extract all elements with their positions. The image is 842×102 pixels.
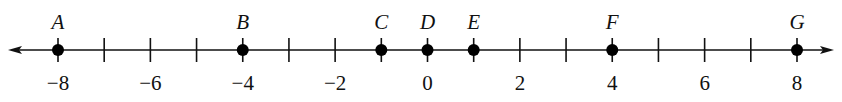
point-f-dot xyxy=(606,44,618,56)
point-f-label: F xyxy=(605,10,619,34)
tick-label: −2 xyxy=(324,71,346,95)
point-e-dot xyxy=(468,44,480,56)
point-g-dot xyxy=(791,44,803,56)
number-line: −8−6−4−202468 ABCDEFG xyxy=(0,0,842,102)
tick-label: 6 xyxy=(699,71,710,95)
point-a-label: A xyxy=(50,10,65,34)
point-e-label: E xyxy=(466,10,480,34)
points: ABCDEFG xyxy=(50,10,805,56)
point-b-dot xyxy=(237,44,249,56)
point-g-label: G xyxy=(789,10,804,34)
tick-label: 8 xyxy=(792,71,803,95)
point-b-label: B xyxy=(236,10,249,34)
point-d-label: D xyxy=(419,10,435,34)
tick-label: 0 xyxy=(422,71,433,95)
axis-line xyxy=(8,46,834,54)
tick-label: −4 xyxy=(232,71,255,95)
tick-label: −6 xyxy=(139,71,161,95)
tick-label: −8 xyxy=(47,71,69,95)
tick-label: 4 xyxy=(607,71,618,95)
point-d-dot xyxy=(422,44,434,56)
point-c-label: C xyxy=(374,10,389,34)
point-a-dot xyxy=(52,44,64,56)
tick-labels: −8−6−4−202468 xyxy=(47,71,802,95)
point-c-dot xyxy=(375,44,387,56)
tick-label: 2 xyxy=(515,71,526,95)
